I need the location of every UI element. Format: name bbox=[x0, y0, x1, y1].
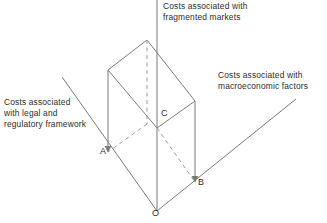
vertex-label-a: A bbox=[100, 146, 106, 156]
vertex-label-o: O bbox=[152, 208, 159, 218]
left-axis-label: Costs associated with legal and regulato… bbox=[4, 97, 104, 130]
box-edge-apex-to-lefttop bbox=[108, 40, 147, 70]
box-hidden-edge-to-A bbox=[108, 124, 147, 152]
vertical-axis-label: Costs associated with fragmented markets bbox=[163, 1, 273, 23]
right-axis-line bbox=[157, 99, 296, 211]
box-edge-lefttop-to-front bbox=[108, 70, 157, 128]
vertex-label-c: C bbox=[161, 108, 168, 118]
cost-diagram: Costs associated with fragmented markets… bbox=[0, 0, 327, 223]
box-hidden-edge-to-B bbox=[157, 128, 195, 182]
edge-arrowheads bbox=[105, 146, 199, 183]
box-edge-apex-to-righttop bbox=[147, 40, 195, 101]
right-axis-label: Costs associated with macroeconomic fact… bbox=[218, 70, 326, 92]
vertex-label-b: B bbox=[198, 177, 204, 187]
